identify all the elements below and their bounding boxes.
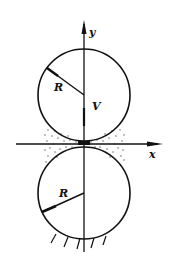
lower-radius-arrow-icon	[42, 206, 56, 212]
y-axis-label: y	[88, 26, 97, 39]
x-axis-arrow-icon	[147, 142, 163, 147]
velocity-label: V	[92, 100, 102, 113]
x-axis-label: x	[148, 148, 156, 161]
roller-contact-diagram: y x R V R	[0, 0, 176, 273]
upper-radius-label: R	[53, 81, 63, 94]
upper-radius-arrow-icon	[47, 68, 58, 76]
y-axis-arrow-icon	[82, 20, 87, 34]
lower-radius-label: R	[58, 187, 68, 200]
